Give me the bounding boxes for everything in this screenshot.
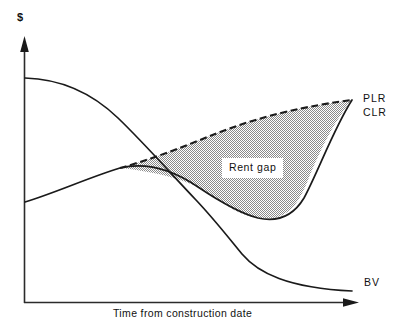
y-axis-title: $ — [17, 12, 23, 23]
plot-canvas — [0, 0, 408, 327]
series-label-bv: BV — [364, 277, 380, 288]
arrow-up-icon — [20, 36, 29, 52]
x-axis-title: Time from construction date — [113, 308, 252, 319]
series-label-plr: PLR — [363, 93, 386, 104]
rent-gap-annotation: Rent gap — [222, 158, 283, 178]
series-label-clr: CLR — [363, 107, 387, 118]
rent-gap-figure: $ Time from construction date PLR CLR BV… — [0, 0, 408, 327]
arrow-right-icon — [343, 298, 359, 307]
